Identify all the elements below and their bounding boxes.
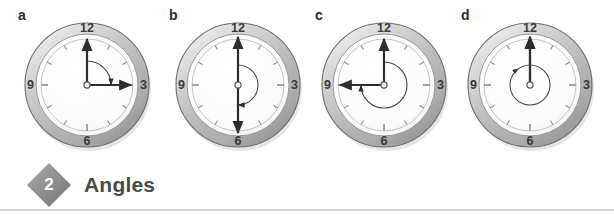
clock-numeral-9: 9 [178,78,185,92]
clock-figure-b: b12369 [163,0,313,158]
clock-face-a: 12369 [12,0,162,158]
clock-numeral-6: 6 [527,134,534,148]
clock-numeral-9: 9 [27,78,34,92]
clock-face-b: 12369 [163,0,313,158]
clock-numeral-12: 12 [80,21,94,35]
clock-numeral-6: 6 [381,134,388,148]
clock-center-hub [235,82,241,88]
clock-numeral-12: 12 [523,21,537,35]
clock-center-hub [84,82,90,88]
clock-center-hub [381,82,387,88]
clock-numeral-3: 3 [140,78,147,92]
clock-numeral-6: 6 [235,134,242,148]
clock-center-hub [527,82,533,88]
clock-numeral-3: 3 [583,78,590,92]
clock-numeral-12: 12 [377,21,391,35]
clock-figure-c: c12369 [309,0,459,158]
section-badge-number: 2 [26,162,72,208]
section-badge: 2 [26,162,72,208]
clock-numeral-9: 9 [324,78,331,92]
clock-figure-a: a12369 [12,0,162,158]
clock-numeral-3: 3 [291,78,298,92]
clock-numeral-12: 12 [231,21,245,35]
section-divider [0,209,614,211]
clock-face-c: 12369 [309,0,459,158]
clock-face-d: 12369 [455,0,605,158]
clock-numeral-9: 9 [470,78,477,92]
clock-figure-d: d12369 [455,0,605,158]
section-title: Angles [84,174,155,195]
section-heading: 2 Angles [0,158,614,214]
clock-figures-row: a12369b12369c12369d12369 [0,0,614,158]
clock-numeral-6: 6 [84,134,91,148]
clock-numeral-3: 3 [437,78,444,92]
